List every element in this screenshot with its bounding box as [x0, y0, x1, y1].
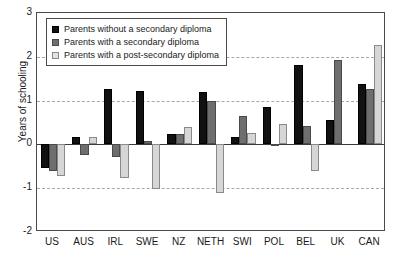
bar: [152, 144, 160, 189]
x-tick-label: SWE: [136, 236, 159, 247]
legend-item: Parents with a post-secondary diploma: [52, 49, 219, 61]
bar: [294, 65, 302, 145]
bar: [167, 134, 175, 144]
bar: [207, 101, 215, 144]
bar: [120, 144, 128, 178]
y-tick-label: 0: [6, 137, 32, 148]
bar: [239, 116, 247, 144]
bar: [112, 144, 120, 156]
x-tick-label: NZ: [172, 236, 185, 247]
bar: [311, 144, 319, 170]
legend-label: Parents with a secondary diploma: [64, 37, 199, 47]
x-tick-label: UK: [330, 236, 344, 247]
bar: [104, 89, 112, 145]
x-tick-label: US: [45, 236, 59, 247]
bar: [136, 91, 144, 144]
x-tick-label: CAN: [359, 236, 380, 247]
legend-item: Parents without a secondary diploma: [52, 23, 219, 35]
bar: [231, 137, 239, 145]
legend-swatch-icon: [52, 39, 59, 46]
bar: [358, 84, 366, 144]
bar: [41, 144, 49, 168]
legend-swatch-icon: [52, 26, 59, 33]
x-tick-label: SWI: [233, 236, 252, 247]
bar: [366, 89, 374, 144]
x-tick-label: POL: [264, 236, 284, 247]
legend-item: Parents with a secondary diploma: [52, 36, 219, 48]
bar: [184, 127, 192, 145]
x-tick-label: NETH: [197, 236, 224, 247]
bar: [199, 92, 207, 145]
y-tick-label: 2: [6, 50, 32, 61]
y-tick-label: 1: [6, 94, 32, 105]
x-tick-label: IRL: [108, 236, 124, 247]
chart-legend: Parents without a secondary diplomaParen…: [46, 18, 227, 66]
bar: [72, 137, 80, 144]
legend-swatch-icon: [52, 52, 59, 59]
bar: [247, 133, 255, 144]
y-tick-label: 3: [6, 6, 32, 17]
bar: [271, 144, 279, 146]
bar: [49, 144, 57, 170]
bar: [80, 144, 88, 155]
legend-label: Parents without a secondary diploma: [64, 24, 212, 34]
x-tick-label: BEL: [296, 236, 315, 247]
gridline: [37, 188, 384, 189]
legend-label: Parents with a post-secondary diploma: [64, 50, 219, 60]
bar: [144, 141, 152, 145]
x-tick-label: AUS: [73, 236, 94, 247]
bar: [326, 120, 334, 144]
bar: [176, 134, 184, 144]
y-tick-label: -1: [6, 181, 32, 192]
bar: [303, 126, 311, 144]
bar: [57, 144, 65, 176]
bar: [89, 137, 97, 144]
bar-chart: Years of schooling 3210-1-2 USAUSIRLSWEN…: [0, 0, 398, 258]
bar: [216, 144, 224, 193]
bar: [263, 107, 271, 145]
y-tick-label: -2: [6, 225, 32, 236]
bar: [374, 45, 382, 144]
zero-baseline: [37, 144, 384, 145]
bar: [334, 60, 342, 144]
bar: [279, 124, 287, 145]
